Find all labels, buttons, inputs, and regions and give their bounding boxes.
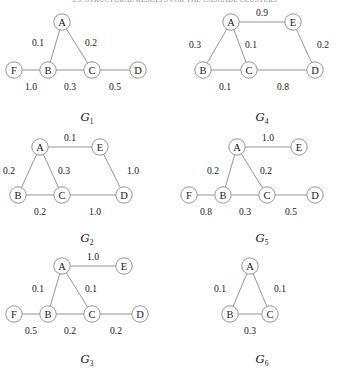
node-label-d: D xyxy=(311,65,319,76)
edge-a-b xyxy=(21,154,36,187)
caption-letter: G xyxy=(81,352,90,366)
edge-weight-b-c: 0.3 xyxy=(244,325,256,336)
node-label-d: D xyxy=(120,190,128,201)
graph-g4: 0.90.30.10.20.10.8AEBCDG4 xyxy=(175,8,349,129)
edge-e-d xyxy=(104,154,121,187)
edge-weight-c-d: 0.2 xyxy=(110,325,122,336)
node-label-a: A xyxy=(58,261,66,272)
graph-g2: 0.10.20.31.00.21.0AEBCDG2 xyxy=(0,129,174,250)
node-label-f: F xyxy=(11,309,17,320)
edge-weight-e-d: 1.0 xyxy=(127,165,139,176)
edge-weight-b-c: 0.3 xyxy=(239,206,251,217)
edge-weight-a-e: 0.9 xyxy=(256,7,268,18)
edge-weight-a-c: 0.1 xyxy=(245,39,257,50)
graph-caption-g4: G4 xyxy=(175,112,349,126)
graph-canvas-g2: 0.10.20.31.00.21.0AEBCD xyxy=(0,129,174,229)
edge-weight-a-b: 0.1 xyxy=(214,283,226,294)
caption-subscript: 3 xyxy=(90,360,94,369)
edge-weight-b-c: 0.1 xyxy=(219,81,231,92)
graph-canvas-g3: 1.00.10.10.50.20.2AEFBCD xyxy=(0,250,174,350)
node-label-b: B xyxy=(226,309,233,320)
edge-weight-a-e: 0.1 xyxy=(64,132,76,143)
node-label-c: C xyxy=(245,65,252,76)
caption-subscript: 4 xyxy=(265,118,269,127)
edge-weight-a-c: 0.1 xyxy=(85,283,97,294)
node-label-d: D xyxy=(136,309,144,320)
edge-weight-a-b: 0.1 xyxy=(32,37,44,48)
edge-a-b xyxy=(50,30,59,62)
node-label-a: A xyxy=(58,17,66,28)
node-label-e: E xyxy=(290,17,296,28)
node-label-d: D xyxy=(134,65,142,76)
edge-a-c xyxy=(43,154,58,187)
edge-a-b xyxy=(225,155,234,187)
caption-letter: G xyxy=(256,352,265,366)
graph-caption-g3: G3 xyxy=(0,354,174,368)
edge-a-c xyxy=(253,274,267,307)
edge-weight-a-b: 0.1 xyxy=(32,283,44,294)
node-label-c: C xyxy=(88,309,95,320)
edge-weight-e-d: 0.2 xyxy=(317,39,329,50)
graph-canvas-g6: 0.10.10.3ABC xyxy=(175,250,349,350)
node-label-f: F xyxy=(186,190,192,201)
node-label-b: B xyxy=(44,309,51,320)
edge-weight-f-b: 0.5 xyxy=(25,325,37,336)
caption-letter: G xyxy=(81,231,90,245)
edge-weight-f-b: 0.8 xyxy=(200,206,212,217)
node-label-e: E xyxy=(97,142,103,153)
edge-weight-a-b: 0.3 xyxy=(189,39,201,50)
edge-weight-a-c: 0.3 xyxy=(58,165,70,176)
node-label-b: B xyxy=(199,65,206,76)
edge-e-d xyxy=(296,29,311,62)
node-label-b: B xyxy=(44,65,51,76)
graph-g6: 0.10.10.3ABCG6 xyxy=(175,250,349,371)
edge-a-b xyxy=(233,274,247,307)
node-label-f: F xyxy=(11,65,17,76)
edge-weight-a-c: 0.1 xyxy=(274,283,286,294)
graph-caption-g5: G5 xyxy=(175,233,349,247)
graph-g5: 1.00.20.20.80.30.5AEFBCDG5 xyxy=(175,129,349,250)
edge-weight-c-d: 1.0 xyxy=(89,206,101,217)
graph-caption-g1: G1 xyxy=(0,112,174,126)
edge-weight-c-d: 0.5 xyxy=(285,206,297,217)
node-label-a: A xyxy=(246,261,254,272)
edge-weight-c-d: 0.8 xyxy=(277,81,289,92)
node-label-c: C xyxy=(58,190,65,201)
graph-canvas-g5: 1.00.20.20.80.30.5AEFBCD xyxy=(175,129,349,229)
graph-canvas-g4: 0.90.30.10.20.10.8AEBCD xyxy=(175,8,349,108)
edge-a-b xyxy=(50,274,59,306)
graph-g1: 0.10.20.30.51.0ABCDFG1 xyxy=(0,8,174,129)
graph-g3: 1.00.10.10.50.20.2AEFBCDG3 xyxy=(0,250,174,371)
node-label-c: C xyxy=(263,190,270,201)
edge-weight-a-b: 0.2 xyxy=(3,165,15,176)
edge-weight-b-c: 0.2 xyxy=(34,206,46,217)
edge-weight-a-c: 0.2 xyxy=(85,37,97,48)
node-label-e: E xyxy=(296,142,302,153)
node-label-a: A xyxy=(227,17,235,28)
caption-letter: G xyxy=(256,110,265,124)
graph-caption-g2: G2 xyxy=(0,233,174,247)
edge-weight-a-b: 0.2 xyxy=(207,165,219,176)
node-label-a: A xyxy=(36,142,44,153)
edge-weight-c-d: 0.5 xyxy=(109,81,121,92)
caption-letter: G xyxy=(256,231,265,245)
caption-subscript: 6 xyxy=(265,360,269,369)
caption-letter: G xyxy=(81,110,90,124)
edge-weight-f-b: 1.0 xyxy=(25,81,37,92)
node-label-a: A xyxy=(233,142,241,153)
edge-weight-b-c: 0.2 xyxy=(64,325,76,336)
edge-weight-a-e: 1.0 xyxy=(87,251,99,262)
edge-weight-a-e: 1.0 xyxy=(262,132,274,143)
node-label-b: B xyxy=(14,190,21,201)
node-label-b: B xyxy=(219,190,226,201)
caption-subscript: 5 xyxy=(265,239,269,248)
node-label-c: C xyxy=(266,309,273,320)
edge-a-b xyxy=(207,29,227,63)
node-label-c: C xyxy=(88,65,95,76)
edge-weight-b-c: 0.3 xyxy=(64,81,76,92)
running-header: 3.3. STRUCTURAL RESULTS FOR THE CASCADE … xyxy=(0,0,349,5)
node-label-d: D xyxy=(311,190,319,201)
node-label-e: E xyxy=(121,261,127,272)
graph-canvas-g1: 0.10.20.30.51.0ABCDF xyxy=(0,8,174,108)
graph-caption-g6: G6 xyxy=(175,354,349,368)
